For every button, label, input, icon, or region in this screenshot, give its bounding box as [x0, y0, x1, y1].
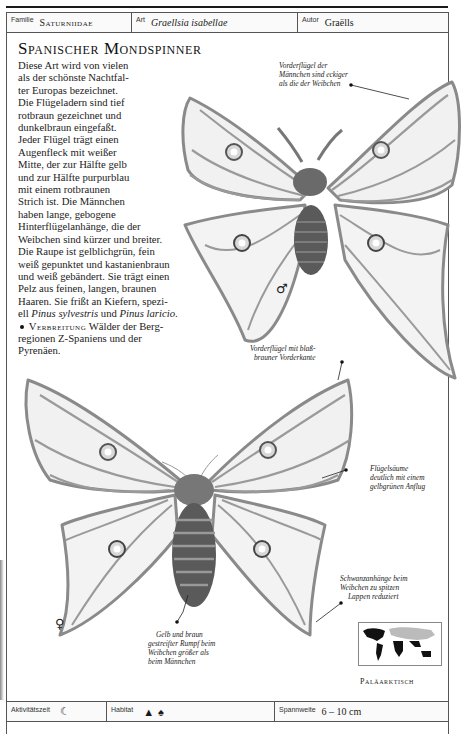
annotation-wing-margins: Flügelsäume deutlich mit einem gelbgrüne… [370, 464, 425, 491]
habitat-label: Habitat [111, 706, 133, 713]
habitat-cell: Habitat ▲ ♠ [107, 702, 275, 721]
info-footer: Aktivitätszeit ☾ Habitat ▲ ♠ Spannweite … [6, 701, 449, 722]
activity-label: Aktivitätszeit [11, 706, 50, 713]
wingspan-label: Spannweite [279, 706, 316, 713]
activity-cell: Aktivitätszeit ☾ [7, 702, 107, 721]
annotation-body: Gelb und braun gestreifter Rumpf beim We… [148, 630, 215, 666]
annotation-male-forewing: Vorderflügel der Männchen sind eckiger a… [279, 61, 348, 88]
map-region-label: Paläarktisch [360, 677, 414, 686]
male-symbol: ♂ [276, 281, 288, 296]
world-map-icon [358, 622, 442, 666]
annotation-forewing-edge: Vorderflügel mit blaß- brauner Vorderkan… [250, 344, 315, 362]
female-symbol: ♀ [55, 616, 65, 631]
annotation-tail: Schwanzanhänge beim Weibchen zu spitzen … [340, 574, 408, 601]
wingspan-value: 6 – 10 cm [322, 706, 362, 717]
female-moth-illustration [26, 380, 352, 635]
mountain-icon: ▲ [143, 706, 154, 718]
moon-icon: ☾ [60, 705, 70, 718]
wingspan-cell: Spannweite 6 – 10 cm [275, 702, 448, 721]
male-moth-illustration [183, 82, 460, 378]
tree-icon: ♠ [158, 706, 164, 718]
